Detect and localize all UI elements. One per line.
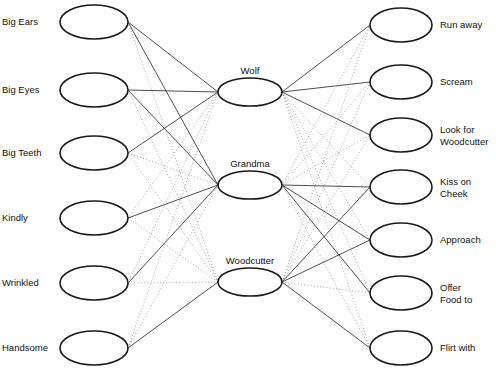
input-node-label: Wrinkled <box>2 277 56 289</box>
output-node[interactable] <box>370 331 432 365</box>
edge-input-hidden <box>128 282 218 348</box>
input-node[interactable] <box>60 73 128 107</box>
input-node[interactable] <box>60 331 128 365</box>
edge-input-hidden <box>128 185 218 218</box>
output-node-label: Look for Woodcutter <box>440 124 496 147</box>
edge-input-hidden <box>128 90 218 92</box>
hidden-node-label: Wolf <box>205 65 295 77</box>
output-node[interactable] <box>370 65 432 99</box>
edge-hidden-output <box>282 185 370 240</box>
input-node[interactable] <box>60 5 128 39</box>
hidden-node[interactable] <box>218 268 282 296</box>
edge-hidden-output <box>282 25 370 185</box>
edge-hidden-output <box>282 25 370 92</box>
edge-hidden-output <box>282 185 370 348</box>
edge-hidden-output <box>282 135 370 282</box>
edge-hidden-output <box>282 92 370 135</box>
input-node-label: Handsome <box>2 342 56 354</box>
edge-hidden-output <box>282 92 370 293</box>
edge-input-hidden <box>128 90 218 282</box>
input-node-label: Big Eyes <box>2 84 56 96</box>
output-node-label: Approach <box>440 234 496 246</box>
output-node-label: Scream <box>440 76 496 88</box>
edge-input-hidden <box>128 282 218 283</box>
edge-hidden-output <box>282 92 370 240</box>
output-node[interactable] <box>370 170 432 204</box>
input-node[interactable] <box>60 266 128 300</box>
output-node[interactable] <box>370 8 432 42</box>
edge-hidden-output <box>282 25 370 282</box>
output-node-label: Offer Food to <box>440 282 496 305</box>
input-node-label: Kindly <box>2 212 56 224</box>
edge-hidden-output <box>282 92 370 187</box>
edge-input-hidden <box>128 185 218 348</box>
edge-hidden-output <box>282 135 370 185</box>
output-node-label: Run away <box>440 19 496 31</box>
edge-input-hidden <box>128 22 218 282</box>
input-node[interactable] <box>60 201 128 235</box>
input-node[interactable] <box>60 136 128 170</box>
edge-input-hidden <box>128 22 218 92</box>
edge-input-hidden <box>128 218 218 282</box>
input-node-label: Big Teeth <box>2 147 56 159</box>
edge-hidden-output <box>282 82 370 185</box>
network-diagram-canvas: Big EarsBig EyesBig TeethKindlyWrinkledH… <box>0 0 496 374</box>
hidden-node[interactable] <box>218 78 282 106</box>
output-node-label: Kiss on Cheek <box>440 176 496 199</box>
output-node[interactable] <box>370 223 432 257</box>
output-node[interactable] <box>370 276 432 310</box>
edge-hidden-output <box>282 240 370 282</box>
hidden-node[interactable] <box>218 171 282 199</box>
output-node-label: Flirt with <box>440 342 496 354</box>
nodes-layer <box>60 5 432 365</box>
edge-input-hidden <box>128 92 218 153</box>
edge-hidden-output <box>282 282 370 348</box>
edge-input-hidden <box>128 92 218 348</box>
input-node-label: Big Ears <box>2 16 56 28</box>
hidden-node-label: Grandma <box>205 158 295 170</box>
edge-hidden-output <box>282 185 370 187</box>
hidden-node-label: Woodcutter <box>205 255 295 267</box>
output-node[interactable] <box>370 118 432 152</box>
edge-hidden-output <box>282 82 370 282</box>
edge-hidden-output <box>282 82 370 92</box>
edge-hidden-output <box>282 92 370 348</box>
network-graph-svg <box>0 0 496 374</box>
